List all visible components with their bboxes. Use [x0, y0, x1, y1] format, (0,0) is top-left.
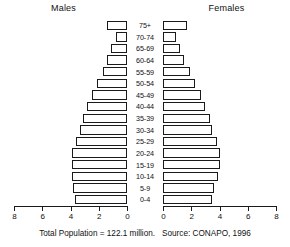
- bar-females-55-59: [163, 67, 190, 76]
- bar-males-60-64: [107, 55, 127, 64]
- bar-row: [163, 20, 276, 31]
- bar-row: [163, 171, 276, 182]
- axis-tick-label-8: 8: [269, 212, 285, 221]
- bar-females-65-69: [163, 44, 180, 53]
- axis-tick-label-8: 8: [7, 212, 23, 221]
- bar-females-60-64: [163, 55, 184, 64]
- total-population-text: Total Population = 122.1 million.: [39, 229, 155, 238]
- axis-tick: [163, 206, 164, 211]
- age-label-25-29: 25-29: [127, 136, 163, 147]
- bar-males-5-9: [73, 183, 127, 192]
- bar-males-0-4: [75, 195, 127, 204]
- axis-tick-label-0: 0: [156, 212, 172, 221]
- bar-row: [14, 67, 127, 78]
- bar-row: [14, 148, 127, 159]
- bar-row: [14, 113, 127, 124]
- bar-males-30-34: [80, 125, 127, 134]
- bar-row: [14, 78, 127, 89]
- age-label-65-69: 65-69: [127, 43, 163, 54]
- axis-tick-label-6: 6: [35, 212, 51, 221]
- bar-females-70-74: [163, 32, 176, 41]
- axis-tick: [220, 206, 221, 211]
- bar-row: [163, 90, 276, 101]
- bar-females-10-14: [163, 172, 218, 181]
- axis-tick-label-2: 2: [184, 212, 200, 221]
- bar-row: [14, 125, 127, 136]
- bar-row: [163, 125, 276, 136]
- bar-males-75+: [107, 21, 127, 30]
- bar-row: [163, 67, 276, 78]
- age-label-30-34: 30-34: [127, 125, 163, 136]
- axis-tick-label-2: 2: [91, 212, 107, 221]
- bar-row: [163, 148, 276, 159]
- axis-tick-label-4: 4: [212, 212, 228, 221]
- bar-males-65-69: [111, 44, 127, 53]
- bar-females-20-24: [163, 148, 220, 157]
- population-pyramid-chart: Males Females 75+70-7465-6960-6455-5950-…: [0, 0, 290, 247]
- bar-row: [163, 136, 276, 147]
- bar-row: [163, 183, 276, 194]
- age-label-0-4: 0-4: [127, 194, 163, 205]
- axis-tick: [42, 206, 43, 211]
- axis-tick: [127, 206, 128, 211]
- axis-tick-label-6: 6: [240, 212, 256, 221]
- bar-row: [14, 32, 127, 43]
- bar-row: [14, 136, 127, 147]
- bar-row: [163, 78, 276, 89]
- bar-males-70-74: [116, 32, 127, 41]
- bar-females-0-4: [163, 195, 212, 204]
- source-text: Source: CONAPO, 1996: [162, 229, 251, 238]
- bar-males-20-24: [72, 148, 127, 157]
- bar-row: [14, 160, 127, 171]
- males-column-header: Males: [0, 3, 127, 13]
- bar-males-45-49: [92, 90, 127, 99]
- age-label-10-14: 10-14: [127, 171, 163, 182]
- bar-females-40-44: [163, 102, 205, 111]
- axis-tick-label-0: 0: [120, 212, 136, 221]
- axis-tick: [248, 206, 249, 211]
- age-label-60-64: 60-64: [127, 55, 163, 66]
- bar-females-35-39: [163, 114, 210, 123]
- age-label-35-39: 35-39: [127, 113, 163, 124]
- bar-row: [163, 160, 276, 171]
- age-label-40-44: 40-44: [127, 101, 163, 112]
- bar-males-55-59: [103, 67, 127, 76]
- age-label-15-19: 15-19: [127, 160, 163, 171]
- bar-males-10-14: [72, 172, 127, 181]
- bar-females-25-29: [163, 137, 217, 146]
- bar-females-30-34: [163, 125, 212, 134]
- age-label-55-59: 55-59: [127, 67, 163, 78]
- bar-row: [14, 20, 127, 31]
- bar-females-15-19: [163, 160, 220, 169]
- axis-tick-label-4: 4: [63, 212, 79, 221]
- age-group-labels: 75+70-7465-6960-6455-5950-5445-4940-4435…: [127, 20, 163, 206]
- age-label-20-24: 20-24: [127, 148, 163, 159]
- bar-males-50-54: [97, 79, 127, 88]
- males-bars-area: [14, 20, 127, 206]
- bar-row: [163, 55, 276, 66]
- axis-tick: [71, 206, 72, 211]
- bar-males-40-44: [87, 102, 127, 111]
- bar-row: [14, 90, 127, 101]
- age-label-75+: 75+: [127, 20, 163, 31]
- bar-males-15-19: [72, 160, 127, 169]
- bar-row: [163, 43, 276, 54]
- axis-tick: [191, 206, 192, 211]
- bar-males-35-39: [83, 114, 127, 123]
- bar-row: [14, 171, 127, 182]
- axis-tick: [14, 206, 15, 211]
- bar-females-5-9: [163, 183, 214, 192]
- bar-females-50-54: [163, 79, 195, 88]
- age-label-45-49: 45-49: [127, 90, 163, 101]
- age-label-70-74: 70-74: [127, 32, 163, 43]
- females-bars-area: [163, 20, 276, 206]
- bar-row: [14, 183, 127, 194]
- bar-row: [163, 194, 276, 205]
- axis-tick: [99, 206, 100, 211]
- bar-row: [163, 113, 276, 124]
- chart-footer: Total Population = 122.1 million.Source:…: [0, 229, 290, 238]
- age-label-5-9: 5-9: [127, 183, 163, 194]
- age-label-50-54: 50-54: [127, 78, 163, 89]
- bar-males-25-29: [76, 137, 127, 146]
- bar-row: [14, 55, 127, 66]
